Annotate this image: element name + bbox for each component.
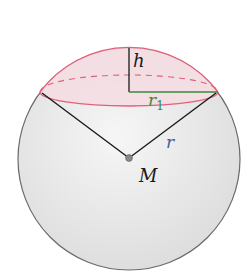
center-point (126, 155, 133, 162)
label-r: r (166, 132, 175, 152)
spherical-cap-diagram: h r1 r M (0, 0, 249, 278)
label-r1-sub: 1 (156, 99, 164, 113)
label-M: M (138, 165, 158, 186)
label-h: h (133, 50, 145, 71)
diagram-canvas: h r1 r M (0, 0, 249, 278)
